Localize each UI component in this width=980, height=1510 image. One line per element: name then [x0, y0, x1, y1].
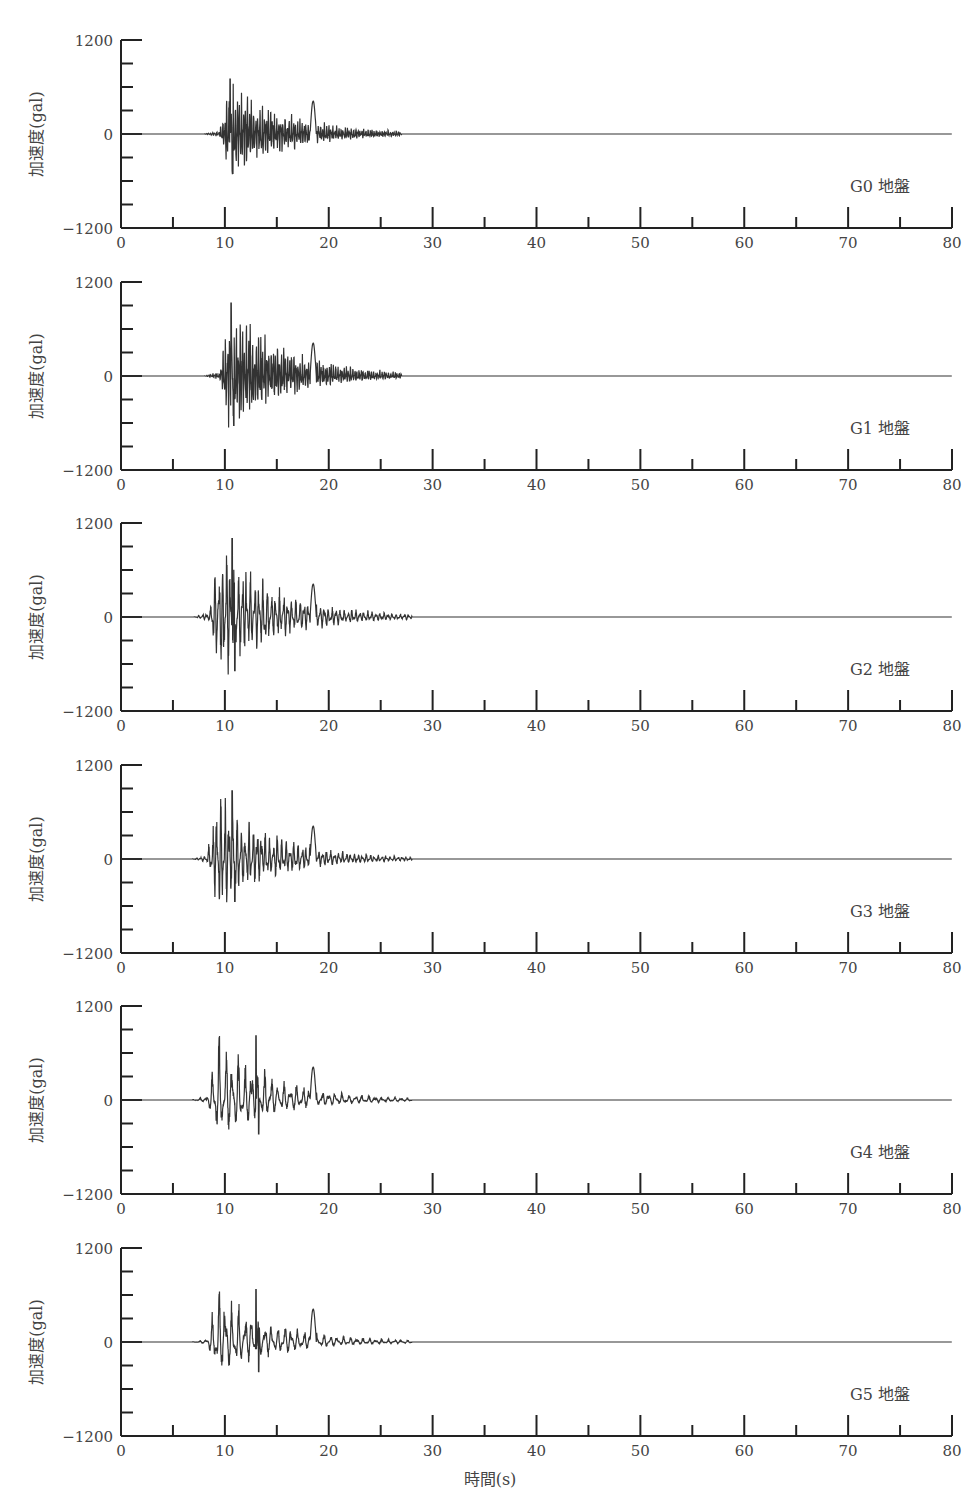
y-tick-label: 0 [103, 368, 113, 386]
y-tick-label: −1200 [62, 220, 113, 238]
x-tick-label: 50 [631, 1200, 650, 1218]
y-tick-label: −1200 [62, 1186, 113, 1204]
x-tick-label: 50 [631, 1442, 650, 1460]
seismic-acceleration-chart: 12000−120001020304050607080加速度(gal)G0 地盤… [0, 0, 980, 1510]
x-tick-label: 30 [423, 476, 442, 494]
x-tick-label: 20 [319, 476, 338, 494]
x-tick-label: 80 [942, 717, 961, 735]
x-tick-label: 20 [319, 1442, 338, 1460]
x-tick-label: 10 [215, 1442, 234, 1460]
x-tick-label: 60 [735, 1442, 754, 1460]
acceleration-waveform [121, 791, 952, 902]
panel-g3: 12000−120001020304050607080加速度(gal)G3 地盤 [27, 757, 962, 977]
y-tick-label: 0 [103, 1334, 113, 1352]
x-tick-label: 40 [527, 1442, 546, 1460]
x-tick-label: 0 [116, 717, 126, 735]
y-axis-title: 加速度(gal) [27, 333, 46, 418]
panel-g1: 12000−120001020304050607080加速度(gal)G1 地盤 [27, 274, 962, 494]
x-tick-label: 80 [942, 1200, 961, 1218]
x-tick-label: 80 [942, 1442, 961, 1460]
panel-label: G2 地盤 [850, 660, 910, 679]
y-tick-label: −1200 [62, 945, 113, 963]
acceleration-waveform [121, 303, 952, 427]
x-tick-label: 10 [215, 476, 234, 494]
y-tick-label: 1200 [75, 274, 113, 292]
acceleration-waveform [121, 1036, 952, 1134]
x-tick-label: 30 [423, 234, 442, 252]
panel-label: G1 地盤 [850, 419, 910, 438]
y-tick-label: 0 [103, 126, 113, 144]
y-tick-label: 1200 [75, 1240, 113, 1258]
y-tick-label: 0 [103, 609, 113, 627]
x-tick-label: 70 [839, 1442, 858, 1460]
y-tick-label: 1200 [75, 32, 113, 50]
y-tick-label: −1200 [62, 703, 113, 721]
y-tick-label: −1200 [62, 462, 113, 480]
x-tick-label: 0 [116, 1200, 126, 1218]
y-tick-label: 0 [103, 1092, 113, 1110]
panel-label: G0 地盤 [850, 177, 910, 196]
y-tick-label: −1200 [62, 1428, 113, 1446]
panel-g2: 12000−120001020304050607080加速度(gal)G2 地盤 [27, 515, 962, 735]
acceleration-waveform [121, 79, 952, 174]
acceleration-waveform [121, 1290, 952, 1372]
panel-label: G5 地盤 [850, 1385, 910, 1404]
x-tick-label: 40 [527, 476, 546, 494]
x-tick-label: 50 [631, 959, 650, 977]
y-tick-label: 1200 [75, 998, 113, 1016]
x-tick-label: 30 [423, 1200, 442, 1218]
x-tick-label: 50 [631, 476, 650, 494]
x-tick-label: 70 [839, 476, 858, 494]
x-tick-label: 60 [735, 476, 754, 494]
x-tick-label: 80 [942, 476, 961, 494]
x-tick-label: 40 [527, 959, 546, 977]
x-tick-label: 10 [215, 717, 234, 735]
x-tick-label: 20 [319, 1200, 338, 1218]
x-tick-label: 0 [116, 959, 126, 977]
x-axis-title: 時間(s) [0, 1466, 980, 1490]
x-tick-label: 60 [735, 959, 754, 977]
x-tick-label: 20 [319, 959, 338, 977]
x-tick-label: 60 [735, 717, 754, 735]
y-axis-title: 加速度(gal) [27, 1057, 46, 1142]
y-tick-label: 1200 [75, 757, 113, 775]
x-tick-label: 30 [423, 717, 442, 735]
x-tick-label: 40 [527, 1200, 546, 1218]
x-tick-label: 20 [319, 234, 338, 252]
x-tick-label: 30 [423, 1442, 442, 1460]
acceleration-waveform [121, 539, 952, 675]
panel-g0: 12000−120001020304050607080加速度(gal)G0 地盤 [27, 32, 962, 252]
panel-g5: 12000−120001020304050607080加速度(gal)G5 地盤 [27, 1240, 962, 1460]
x-tick-label: 40 [527, 234, 546, 252]
x-tick-label: 50 [631, 234, 650, 252]
panel-label: G3 地盤 [850, 902, 910, 921]
y-tick-label: 0 [103, 851, 113, 869]
x-tick-label: 40 [527, 717, 546, 735]
y-axis-title: 加速度(gal) [27, 1299, 46, 1384]
y-tick-label: 1200 [75, 515, 113, 533]
x-tick-label: 10 [215, 959, 234, 977]
x-tick-label: 70 [839, 959, 858, 977]
x-tick-label: 10 [215, 234, 234, 252]
x-tick-label: 80 [942, 959, 961, 977]
y-axis-title: 加速度(gal) [27, 91, 46, 176]
x-tick-label: 20 [319, 717, 338, 735]
x-tick-label: 10 [215, 1200, 234, 1218]
x-tick-label: 80 [942, 234, 961, 252]
y-axis-title: 加速度(gal) [27, 816, 46, 901]
x-tick-label: 70 [839, 1200, 858, 1218]
x-tick-label: 0 [116, 1442, 126, 1460]
x-tick-label: 0 [116, 476, 126, 494]
x-tick-label: 60 [735, 234, 754, 252]
panel-label: G4 地盤 [850, 1143, 910, 1162]
x-tick-label: 30 [423, 959, 442, 977]
x-tick-label: 70 [839, 234, 858, 252]
panel-g4: 12000−120001020304050607080加速度(gal)G4 地盤 [27, 998, 962, 1218]
x-tick-label: 70 [839, 717, 858, 735]
x-tick-label: 60 [735, 1200, 754, 1218]
y-axis-title: 加速度(gal) [27, 574, 46, 659]
x-tick-label: 50 [631, 717, 650, 735]
x-tick-label: 0 [116, 234, 126, 252]
